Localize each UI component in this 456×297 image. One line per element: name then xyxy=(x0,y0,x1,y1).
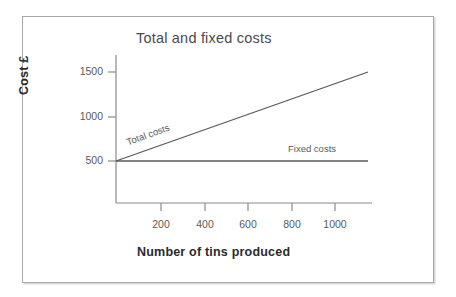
chart-title: Total and fixed costs xyxy=(136,30,272,46)
screenshot-root: Total and fixed costs Cost £ Number of t… xyxy=(0,0,456,297)
y-tick-label-500: 500 xyxy=(63,154,103,166)
series-label-fixed-costs: Fixed costs xyxy=(288,143,336,154)
y-axis-title: Cost £ xyxy=(17,56,31,95)
x-tick-label-600: 600 xyxy=(228,218,268,230)
x-tick-label-400: 400 xyxy=(185,218,225,230)
x-tick-label-1000: 1000 xyxy=(315,218,355,230)
y-tick-label-1500: 1500 xyxy=(63,65,103,77)
y-tick-label-1000: 1000 xyxy=(63,110,103,122)
x-tick-label-200: 200 xyxy=(141,218,181,230)
x-axis-title: Number of tins produced xyxy=(137,245,290,259)
x-tick-label-800: 800 xyxy=(272,218,312,230)
